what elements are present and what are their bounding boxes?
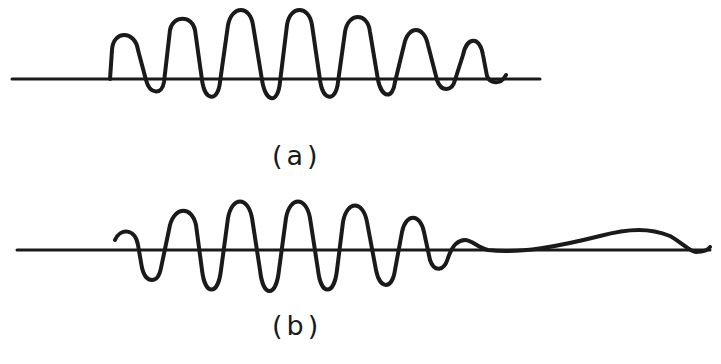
waveform-b	[115, 202, 710, 292]
waveform-a	[110, 10, 506, 98]
waveform-figure	[0, 0, 721, 364]
panel-label-a: (a)	[272, 142, 322, 169]
panel-a	[12, 10, 540, 98]
panel-b	[17, 202, 710, 292]
panel-label-b: (b)	[272, 312, 322, 339]
